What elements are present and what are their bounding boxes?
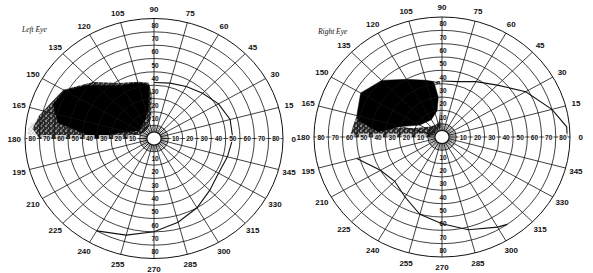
ring-eccentricity-label: 70 [258,135,266,142]
meridian-angle-label: 270 [435,263,449,272]
meridian-angle-label: 300 [217,247,231,256]
ring-eccentricity-label: 40 [151,195,159,202]
meridian-angle-label: 45 [536,41,545,50]
ring-eccentricity-label: 20 [115,135,123,142]
meridian-angle-label: 315 [533,225,547,234]
ring-eccentricity-label: 30 [439,87,447,94]
ring-eccentricity-label: 50 [72,135,80,142]
ring-eccentricity-label: 20 [439,167,447,174]
meridian-angle-label: 30 [271,70,280,79]
ring-eccentricity-label: 40 [439,194,447,201]
ring-eccentricity-label: 20 [474,134,482,141]
meridian-angle-label: 165 [301,99,315,108]
meridian-angle-label: 150 [26,70,40,79]
meridian-angle-label: 15 [285,101,294,110]
right-eye-chart: 0153045607590105120135150165180195210225… [297,3,584,272]
ring-eccentricity-label: 40 [502,134,510,141]
ring-eccentricity-label: 80 [151,22,159,29]
meridian-angle-label: 75 [473,7,482,16]
meridian-angle-label: 15 [571,99,580,108]
meridian-angle-label: 60 [507,20,516,29]
meridian-angle-label: 135 [337,41,351,50]
ring-eccentricity-label: 50 [439,60,447,67]
meridian-angle-label: 165 [12,101,26,110]
ring-eccentricity-label: 20 [403,134,411,141]
meridian-angle-label: 180 [297,133,311,142]
ring-eccentricity-label: 50 [439,207,447,214]
meridian-angle-label: 0 [578,133,583,142]
ring-eccentricity-label: 70 [43,135,51,142]
meridian-line [447,142,532,222]
meridian-angle-label: 330 [555,198,569,207]
left-eye-chart: 0153045607590105120135150165180195210225… [8,5,297,273]
ring-eccentricity-label: 80 [272,135,280,142]
ring-eccentricity-label: 20 [151,168,159,175]
ring-eccentricity-label: 50 [151,208,159,215]
meridian-angle-label: 120 [77,22,91,31]
meridian-angle-label: 225 [49,226,63,235]
meridian-angle-label: 315 [246,226,260,235]
ring-eccentricity-label: 70 [545,134,553,141]
ring-eccentricity-label: 10 [460,134,468,141]
meridian-angle-label: 225 [337,225,351,234]
ring-eccentricity-label: 40 [374,134,382,141]
meridian-line [447,52,532,132]
ring-eccentricity-label: 70 [332,134,340,141]
meridian-angle-label: 285 [184,260,198,269]
ring-eccentricity-label: 10 [417,134,425,141]
fixation-circle [435,130,449,143]
absolute-scotoma [357,79,439,132]
meridian-angle-label: 330 [268,200,282,209]
ring-eccentricity-label: 30 [488,134,496,141]
meridian-line [160,79,266,136]
ring-eccentricity-label: 70 [151,235,159,242]
meridian-angle-label: 195 [301,167,315,176]
ring-eccentricity-label: 50 [229,135,237,142]
meridian-angle-label: 180 [8,135,22,144]
meridian-line [159,54,245,134]
ring-eccentricity-label: 30 [151,88,159,95]
meridian-line [448,140,553,197]
meridian-line [158,144,219,242]
ring-eccentricity-label: 10 [172,135,180,142]
meridian-angle-label: 345 [569,167,583,176]
meridian-angle-label: 270 [147,265,161,273]
meridian-line [378,143,438,241]
ring-eccentricity-label: 10 [151,155,159,162]
isopter-line [442,81,567,137]
meridian-angle-label: 90 [438,3,447,12]
ring-eccentricity-label: 60 [439,220,447,227]
meridian-angle-label: 45 [248,43,257,52]
meridian-angle-label: 210 [26,200,40,209]
right-eye-title: Right Eye [317,27,348,36]
ring-eccentricity-label: 70 [439,34,447,41]
ring-eccentricity-label: 60 [346,134,354,141]
ring-eccentricity-label: 30 [389,134,397,141]
ring-eccentricity-label: 40 [215,135,223,142]
meridian-angle-label: 195 [12,168,26,177]
meridian-angle-label: 345 [282,168,296,177]
ring-eccentricity-label: 80 [559,134,567,141]
ring-eccentricity-label: 10 [439,114,447,121]
ring-eccentricity-label: 40 [151,75,159,82]
meridian-angle-label: 255 [399,259,413,268]
ring-eccentricity-label: 20 [151,102,159,109]
meridian-angle-label: 285 [471,259,485,268]
meridian-line [446,33,506,131]
meridian-angle-label: 105 [399,7,413,16]
ring-eccentricity-label: 40 [439,74,447,81]
meridian-angle-label: 255 [111,260,125,269]
ring-eccentricity-label: 20 [186,135,194,142]
meridian-angle-label: 240 [366,246,380,255]
meridian-angle-label: 150 [315,68,329,77]
ring-eccentricity-label: 30 [201,135,209,142]
visual-field-figure: 0153045607590105120135150165180195210225… [0,0,593,273]
meridian-line [159,143,245,223]
meridian-line [90,144,151,242]
meridian-line [331,140,436,197]
meridian-line [63,143,149,223]
meridian-angle-label: 60 [219,22,228,31]
ring-eccentricity-label: 60 [244,135,252,142]
ring-eccentricity-label: 30 [151,182,159,189]
ring-eccentricity-label: 60 [151,48,159,55]
